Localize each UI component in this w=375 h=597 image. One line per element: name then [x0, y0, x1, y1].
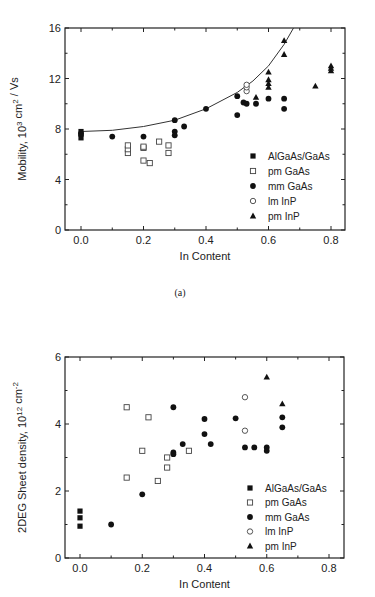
legend-label: AlGaAs/GaAs	[268, 151, 330, 162]
open-square-marker	[166, 150, 171, 155]
x-axis-label: In Content	[180, 250, 231, 262]
filled-circle-marker	[234, 93, 240, 99]
filled-square-marker	[77, 524, 82, 529]
filled-triangle-marker	[247, 543, 253, 549]
plot-area: 0.00.20.40.60.80481216In ContentMobility…	[8, 22, 345, 299]
x-tick-label: 0.2	[136, 234, 151, 246]
y-tick-label: 12	[49, 73, 61, 85]
y-tick-label: 6	[55, 351, 61, 363]
series-lm-inp	[242, 395, 247, 434]
filled-circle-marker	[203, 106, 209, 112]
open-square-marker	[155, 478, 160, 483]
open-square-marker	[247, 500, 252, 505]
filled-circle-marker	[208, 441, 214, 447]
filled-square-marker	[77, 515, 82, 520]
filled-circle-marker	[108, 522, 114, 528]
x-tick-label: 0.6	[261, 234, 276, 246]
legend-label: pm GaAs	[268, 166, 310, 177]
filled-circle-marker	[202, 431, 208, 437]
filled-circle-marker	[266, 96, 272, 102]
open-square-marker	[124, 475, 129, 480]
open-circle-marker	[242, 428, 247, 433]
filled-square-marker	[77, 509, 82, 514]
filled-circle-marker	[281, 96, 287, 102]
filled-triangle-marker	[281, 51, 287, 57]
y-tick-label: 4	[55, 174, 61, 186]
open-circle-marker	[247, 529, 252, 534]
legend: AlGaAs/GaAspm GaAsmm GaAslm InPpm InP	[247, 483, 327, 552]
open-square-marker	[140, 448, 145, 453]
open-square-marker	[165, 465, 170, 470]
open-square-marker	[165, 455, 170, 460]
plot-frame	[65, 357, 344, 558]
series-pm-inp	[253, 37, 334, 100]
open-square-marker	[141, 158, 146, 163]
filled-triangle-marker	[312, 83, 318, 89]
x-tick-label: 0.2	[135, 562, 150, 574]
filled-circle-marker	[251, 445, 257, 451]
filled-circle-marker	[141, 134, 147, 140]
legend-label: pm InP	[265, 541, 297, 552]
x-tick-label: 0.8	[323, 234, 338, 246]
legend-label: AlGaAs/GaAs	[265, 483, 327, 494]
x-axis-label: In Content	[179, 578, 230, 590]
filled-circle-marker	[244, 101, 250, 107]
filled-circle-marker	[109, 134, 115, 140]
y-tick-label: 4	[55, 418, 61, 430]
filled-triangle-marker	[250, 213, 256, 219]
x-tick-label: 0.4	[198, 234, 213, 246]
y-axis-label: 2DEG Sheet density, 1012 cm-2	[11, 381, 28, 533]
open-square-marker	[124, 405, 129, 410]
filled-circle-marker	[78, 131, 84, 137]
plot-area: 0.00.20.40.60.80246In Content2DEG Sheet …	[11, 351, 344, 590]
filled-triangle-marker	[253, 94, 259, 100]
open-square-marker	[146, 415, 151, 420]
sheet-density-chart: 0.00.20.40.60.80246In Content2DEG Sheet …	[0, 300, 375, 597]
filled-circle-marker	[181, 124, 187, 130]
filled-circle-marker	[279, 424, 285, 430]
x-tick-label: 0.4	[197, 562, 212, 574]
filled-circle-marker	[172, 132, 178, 138]
legend-label: mm GaAs	[268, 181, 312, 192]
filled-square-marker	[250, 153, 255, 158]
filled-circle-marker	[250, 183, 256, 189]
open-square-marker	[186, 448, 191, 453]
x-tick-label: 0.0	[73, 234, 88, 246]
legend-label: pm GaAs	[265, 497, 307, 508]
y-tick-label: 2	[55, 485, 61, 497]
filled-circle-marker	[247, 514, 253, 520]
open-circle-marker	[244, 82, 249, 87]
open-circle-marker	[242, 395, 247, 400]
legend-label: lm InP	[268, 196, 297, 207]
filled-triangle-marker	[264, 374, 270, 380]
open-square-marker	[250, 168, 255, 173]
filled-circle-marker	[202, 416, 208, 422]
y-tick-label: 0	[55, 552, 61, 564]
filled-triangle-marker	[328, 62, 334, 68]
filled-triangle-marker	[265, 69, 271, 75]
filled-circle-marker	[279, 414, 285, 420]
open-square-marker	[125, 143, 130, 148]
open-square-marker	[166, 143, 171, 148]
legend: AlGaAs/GaAspm GaAsmm GaAslm InPpm InP	[250, 151, 330, 222]
filled-circle-marker	[281, 106, 287, 112]
series-pm-gaas	[125, 139, 171, 166]
series-pm-inp	[264, 374, 286, 407]
plot-frame	[65, 28, 345, 230]
filled-circle-marker	[172, 117, 178, 123]
series-lm-inp	[244, 82, 249, 94]
legend-label: lm InP	[265, 526, 294, 537]
y-tick-label: 0	[55, 224, 61, 236]
filled-triangle-marker	[265, 76, 271, 82]
y-axis-label: Mobility, 103 cm2 / Vs	[8, 77, 28, 181]
panel-caption: (a)	[174, 287, 185, 299]
open-circle-marker	[250, 198, 255, 203]
legend-label: pm InP	[268, 211, 300, 222]
series-algaas-gaas	[77, 509, 82, 529]
filled-square-marker	[247, 485, 252, 490]
mobility-chart: 0.00.20.40.60.80481216In ContentMobility…	[0, 0, 375, 300]
y-tick-label: 16	[49, 22, 61, 34]
open-square-marker	[141, 144, 146, 149]
filled-circle-marker	[233, 415, 239, 421]
series-mm-gaas	[78, 93, 287, 139]
